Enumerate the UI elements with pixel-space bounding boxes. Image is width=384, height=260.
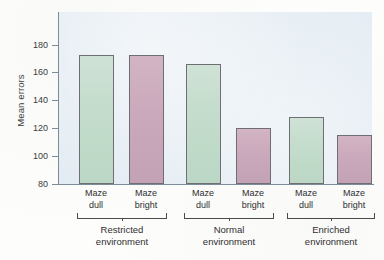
x-tick-line1: Maze [343, 188, 365, 198]
y-tick-mark-160 [52, 72, 59, 73]
x-tick-line2: bright [118, 200, 174, 212]
bar-normal-maze-dull[interactable] [186, 64, 221, 184]
x-tick-label-enriched-maze-bright: Maze bright [326, 188, 382, 211]
bar-enriched-maze-dull[interactable] [289, 117, 324, 184]
x-tick-label-restricted-maze-dull: Maze dull [68, 188, 124, 211]
x-tick-line2: bright [326, 200, 382, 212]
bar-chart-figure: Mean errors 180 160 140 120 100 80 Maze … [0, 0, 384, 260]
group-label-line2: environment [266, 236, 384, 248]
y-tick-label-80: 80 [14, 179, 48, 189]
x-tick-line1: Maze [85, 188, 107, 198]
y-tick-label-100: 100 [14, 151, 48, 161]
y-axis-line [58, 12, 59, 185]
group-label-line1: Enriched [312, 224, 350, 235]
group-label-enriched: Enriched environment [266, 224, 384, 248]
bar-restricted-maze-bright[interactable] [129, 55, 164, 184]
x-tick-line2: dull [175, 200, 231, 212]
y-tick-label-160: 160 [14, 67, 48, 77]
x-tick-line1: Maze [295, 188, 317, 198]
x-tick-line1: Maze [242, 188, 264, 198]
x-tick-line2: bright [225, 200, 281, 212]
bar-restricted-maze-dull[interactable] [79, 55, 114, 184]
group-bracket-normal [184, 213, 274, 219]
group-label-line1: Normal [214, 224, 245, 235]
group-bracket-restricted [77, 213, 167, 219]
y-tick-mark-100 [52, 156, 59, 157]
x-tick-label-normal-maze-bright: Maze bright [225, 188, 281, 211]
y-tick-label-120: 120 [14, 123, 48, 133]
bar-normal-maze-bright[interactable] [236, 128, 271, 184]
y-tick-label-180: 180 [14, 40, 48, 50]
x-tick-line2: dull [68, 200, 124, 212]
y-tick-mark-180 [52, 45, 59, 46]
y-tick-mark-120 [52, 128, 59, 129]
y-tick-mark-80 [52, 184, 59, 185]
y-tick-mark-140 [52, 100, 59, 101]
x-tick-line1: Maze [192, 188, 214, 198]
x-tick-label-normal-maze-dull: Maze dull [175, 188, 231, 211]
bar-enriched-maze-bright[interactable] [337, 135, 372, 184]
x-tick-line1: Maze [135, 188, 157, 198]
group-label-line1: Restricted [101, 224, 144, 235]
group-bracket-enriched [287, 213, 375, 219]
y-tick-label-140: 140 [14, 95, 48, 105]
x-axis-line [58, 184, 374, 185]
x-tick-label-restricted-maze-bright: Maze bright [118, 188, 174, 211]
